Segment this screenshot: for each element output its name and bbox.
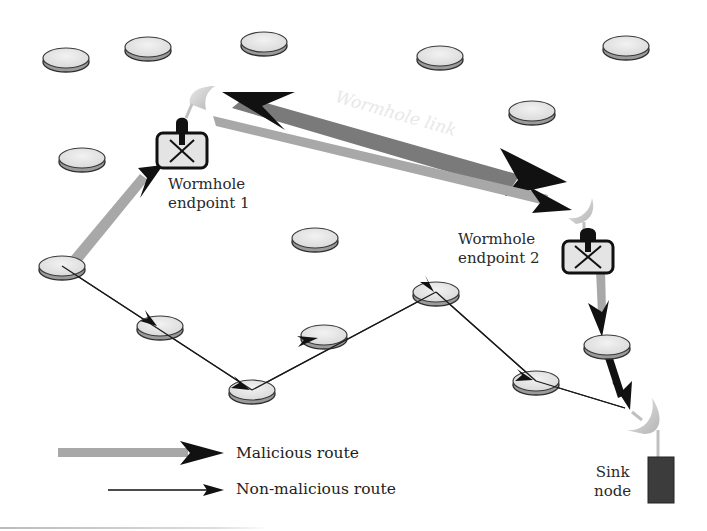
sensor-node <box>603 36 649 60</box>
endpoint-2-label: Wormhole endpoint 2 <box>458 230 540 268</box>
sensor-node <box>513 371 559 395</box>
sensor-node <box>43 48 89 72</box>
bottom-divider <box>0 527 270 529</box>
wormhole-link: Wormhole link <box>222 86 567 196</box>
sink-node-label: Sink node <box>594 463 631 501</box>
sensor-node <box>509 101 555 125</box>
wormhole-endpoint-2-device <box>563 228 613 273</box>
sensor-node <box>417 46 463 70</box>
sensor-node <box>413 282 459 306</box>
sensor-node <box>301 325 347 349</box>
legend-malicious-label: Malicious route <box>236 444 359 462</box>
endpoint-2-label-line1: Wormhole <box>458 230 540 249</box>
sink-node-device <box>648 457 674 503</box>
wormhole-endpoint-1-device <box>157 118 207 168</box>
sensor-node <box>125 37 171 61</box>
antenna-endpoint1 <box>186 86 215 118</box>
sink-node-label-line1: Sink <box>594 463 631 482</box>
legend-non-malicious-arrow <box>108 484 224 496</box>
legend-malicious-arrow <box>58 441 224 465</box>
sink-node-label-line2: node <box>594 482 631 501</box>
malicious-route-start <box>68 165 163 266</box>
sensor-node <box>292 228 338 252</box>
sensor-node <box>229 380 275 404</box>
antenna-sink <box>626 398 660 457</box>
legend-non-malicious-label: Non-malicious route <box>236 480 396 498</box>
arrow-head-icon <box>612 381 632 410</box>
endpoint-1-label-line1: Wormhole <box>168 175 250 194</box>
route-nodes <box>39 256 630 404</box>
endpoint-1-label-line2: endpoint 1 <box>168 194 250 213</box>
endpoint-1-label: Wormhole endpoint 1 <box>168 175 250 213</box>
sensor-node <box>241 32 287 56</box>
sensor-node <box>584 335 630 359</box>
endpoint-2-label-line2: endpoint 2 <box>458 249 540 268</box>
idle-nodes <box>43 32 649 252</box>
sensor-node <box>59 148 105 172</box>
